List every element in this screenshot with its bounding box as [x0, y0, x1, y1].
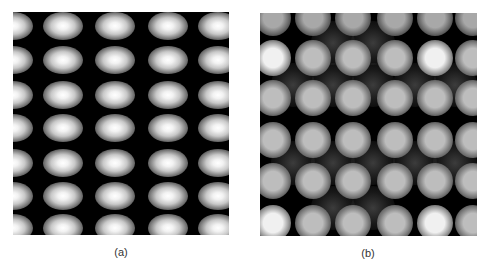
lattice-spot: [377, 163, 413, 199]
lattice-spot: [148, 182, 188, 210]
lattice-spot: [43, 182, 83, 210]
lattice-spot: [198, 149, 229, 177]
lattice-spot: [43, 46, 83, 74]
lattice-spot: [95, 12, 135, 40]
lattice-spot: [198, 114, 229, 142]
lattice-spot: [295, 80, 331, 116]
lattice-spot: [295, 205, 331, 236]
lattice-spot: [13, 46, 33, 74]
panel-label-b: (b): [353, 247, 383, 259]
lattice-spot: [295, 122, 331, 158]
image-panel-b: [260, 13, 477, 236]
lattice-spot: [417, 205, 453, 236]
lattice-spot: [95, 182, 135, 210]
lattice-spot: [13, 214, 33, 235]
lattice-spot: [43, 114, 83, 142]
lattice-spot: [43, 149, 83, 177]
lattice-spot: [198, 182, 229, 210]
lattice-spot: [43, 81, 83, 109]
lattice-spot: [260, 205, 291, 236]
lattice-spot: [335, 205, 371, 236]
lattice-spot: [455, 163, 477, 199]
lattice-spot: [148, 114, 188, 142]
lattice-spot: [95, 46, 135, 74]
lattice-spot: [198, 46, 229, 74]
lattice-spot: [148, 81, 188, 109]
lattice-spot: [260, 163, 291, 199]
panel-label-a: (a): [106, 246, 136, 258]
lattice-spot: [95, 81, 135, 109]
lattice-spot: [95, 149, 135, 177]
lattice-spot: [455, 13, 477, 36]
lattice-spot: [417, 80, 453, 116]
lattice-spot: [198, 214, 229, 235]
lattice-spot: [335, 163, 371, 199]
lattice-spot: [13, 114, 33, 142]
lattice-spot: [43, 214, 83, 235]
lattice-spot: [417, 13, 453, 36]
lattice-spot: [148, 214, 188, 235]
lattice-spot: [13, 12, 33, 40]
lattice-spot: [198, 81, 229, 109]
lattice-spot: [43, 12, 83, 40]
lattice-spot: [148, 12, 188, 40]
lattice-spot: [377, 122, 413, 158]
lattice-spot: [377, 80, 413, 116]
lattice-spot: [417, 40, 453, 76]
lattice-spot: [377, 205, 413, 236]
lattice-spot: [13, 81, 33, 109]
lattice-spot: [148, 46, 188, 74]
lattice-spot: [335, 80, 371, 116]
lattice-spot: [13, 182, 33, 210]
lattice-spot: [377, 40, 413, 76]
lattice-spot: [455, 205, 477, 236]
lattice-spot: [260, 13, 291, 36]
lattice-spot: [95, 214, 135, 235]
lattice-spot: [335, 122, 371, 158]
lattice-spot: [455, 80, 477, 116]
lattice-spot: [13, 149, 33, 177]
lattice-spot: [417, 122, 453, 158]
lattice-spot: [295, 163, 331, 199]
image-panel-a: [13, 12, 229, 235]
lattice-spot: [335, 40, 371, 76]
lattice-spot: [295, 40, 331, 76]
lattice-spot: [148, 149, 188, 177]
lattice-spot: [95, 114, 135, 142]
lattice-spot: [417, 163, 453, 199]
lattice-spot: [260, 80, 291, 116]
lattice-spot: [198, 12, 229, 40]
